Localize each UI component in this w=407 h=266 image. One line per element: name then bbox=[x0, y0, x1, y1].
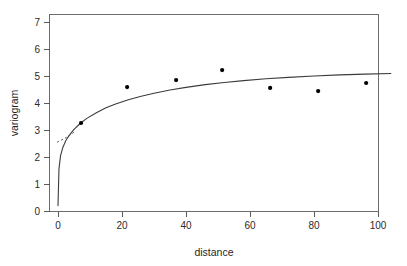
y-tick-label: 3 bbox=[34, 125, 40, 136]
x-tick-label: 20 bbox=[116, 220, 128, 231]
y-tick-label: 0 bbox=[34, 206, 40, 217]
fitted-model-curve bbox=[58, 74, 391, 206]
data-point bbox=[174, 78, 178, 82]
data-point bbox=[364, 81, 368, 85]
y-tick-label: 7 bbox=[34, 17, 40, 28]
variogram-figure: 01234567 020406080100 distance variogram bbox=[0, 0, 407, 266]
data-point bbox=[268, 86, 272, 90]
x-axis-title: distance bbox=[194, 246, 233, 258]
x-tick-label: 40 bbox=[180, 220, 192, 231]
x-tick-label: 100 bbox=[370, 220, 387, 231]
x-tick-label: 80 bbox=[308, 220, 320, 231]
data-point bbox=[125, 85, 129, 89]
x-tick-label: 0 bbox=[55, 220, 61, 231]
y-axis-title: variogram bbox=[8, 89, 20, 136]
data-point bbox=[79, 121, 83, 125]
y-tick-label: 5 bbox=[34, 71, 40, 82]
variogram-plot: 01234567 020406080100 distance variogram bbox=[0, 0, 407, 266]
x-tick-label: 60 bbox=[244, 220, 256, 231]
y-axis-ticks bbox=[44, 22, 50, 211]
data-point bbox=[220, 68, 224, 72]
y-axis-tick-labels: 01234567 bbox=[34, 17, 40, 217]
x-axis-ticks bbox=[58, 212, 378, 218]
plot-frame bbox=[50, 15, 379, 212]
data-point bbox=[316, 89, 320, 93]
y-tick-label: 4 bbox=[34, 98, 40, 109]
y-tick-label: 6 bbox=[34, 44, 40, 55]
y-tick-label: 1 bbox=[34, 179, 40, 190]
data-point-group bbox=[79, 68, 368, 125]
x-axis-tick-labels: 020406080100 bbox=[55, 220, 387, 231]
y-tick-label: 2 bbox=[34, 152, 40, 163]
